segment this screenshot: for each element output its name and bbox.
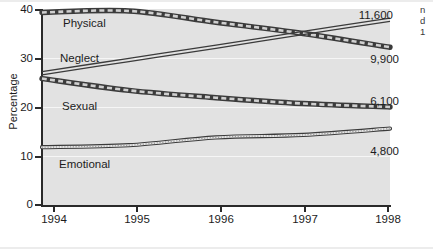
value-annotation-neglect: 11,600 — [347, 9, 393, 21]
value-annotation-physical: 9,900 — [353, 53, 399, 65]
series-emotional — [42, 129, 390, 148]
series-label-physical: Physical — [63, 17, 106, 29]
series-layer — [0, 0, 433, 250]
margin-note-line-2: d — [420, 15, 433, 26]
series-label-emotional: Emotional — [59, 158, 110, 170]
value-annotation-emotional: 4,800 — [353, 145, 399, 157]
chart-figure: 40 30 20 10 0 Percentage 1994 1995 1996 … — [0, 0, 433, 250]
margin-note-clipped: n d 1 — [420, 4, 433, 37]
series-label-sexual: Sexual — [62, 100, 97, 112]
margin-note-line-1: n — [420, 4, 433, 15]
series-label-neglect: Neglect — [60, 52, 99, 64]
value-annotation-sexual: 6,100 — [353, 95, 399, 107]
margin-note-line-3: 1 — [420, 26, 433, 37]
